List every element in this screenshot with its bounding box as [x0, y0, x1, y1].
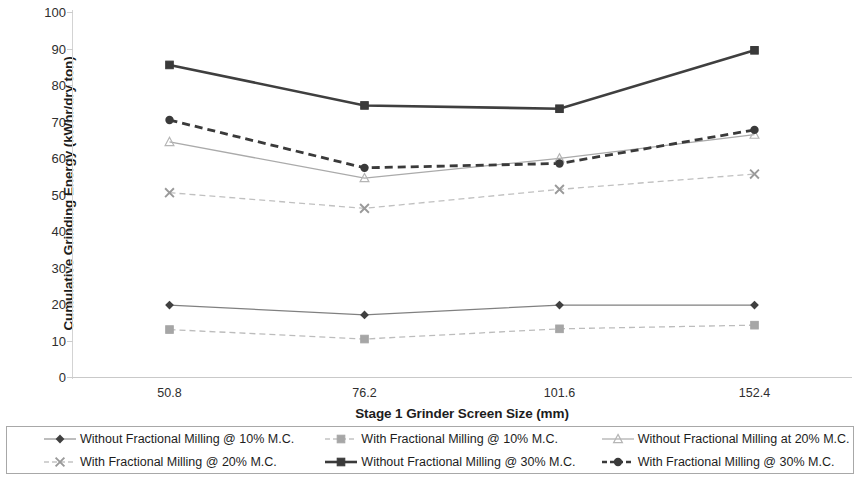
y-tick-label: 20	[0, 297, 66, 312]
x-axis-line	[70, 377, 852, 378]
data-point-square	[751, 47, 759, 55]
y-tick-label: 40	[0, 224, 66, 239]
data-point-square	[556, 105, 564, 113]
data-point-circle	[360, 164, 368, 172]
series-1	[166, 321, 759, 342]
legend-item-with-fm-10[interactable]: With Fractional Milling @ 10% M.C.	[306, 432, 590, 446]
y-tick-label: 10	[0, 333, 66, 348]
series-line	[170, 174, 755, 208]
legend-sample-triangle-icon	[601, 433, 635, 445]
data-point-diamond	[56, 434, 65, 443]
legend-item-with-fm-20[interactable]: With Fractional Milling @ 20% M.C.	[7, 455, 306, 469]
series-line	[170, 120, 755, 168]
y-tick-label: 80	[0, 78, 66, 93]
data-point-diamond	[750, 301, 759, 310]
legend-sample-dark-square-icon	[324, 456, 358, 468]
y-tick-mark	[67, 377, 73, 378]
y-tick-label: 0	[0, 370, 66, 385]
x-axis-title: Stage 1 Grinder Screen Size (mm)	[72, 406, 852, 421]
data-point-square	[166, 326, 174, 334]
legend-label: With Fractional Milling @ 10% M.C.	[361, 432, 558, 446]
data-point-circle	[165, 116, 173, 124]
legend-item-without-fm-20[interactable]: Without Fractional Milling at 20% M.C.	[591, 432, 853, 446]
data-point-square	[338, 458, 346, 466]
figure-container: Cumulative Grinding Energy (kWhr/dry ton…	[0, 0, 864, 491]
y-tick-label: 90	[0, 41, 66, 56]
data-point-circle	[613, 457, 621, 465]
series-2	[165, 130, 759, 182]
y-tick-label: 50	[0, 187, 66, 202]
y-tick-label: 70	[0, 114, 66, 129]
legend-item-without-fm-30[interactable]: Without Fractional Milling @ 30% M.C.	[306, 455, 590, 469]
series-layer	[72, 12, 852, 377]
series-3	[165, 170, 759, 213]
data-point-square	[556, 325, 564, 333]
x-tick-label: 50.8	[157, 386, 181, 400]
data-point-diamond	[165, 301, 174, 310]
data-point-square	[751, 321, 759, 329]
data-point-square	[338, 435, 346, 443]
legend-label: With Fractional Milling @ 20% M.C.	[80, 455, 277, 469]
legend-sample-diamond-icon	[43, 433, 77, 445]
legend-label: Without Fractional Milling @ 30% M.C.	[361, 455, 575, 469]
x-tick-label: 76.2	[352, 386, 376, 400]
data-point-square	[361, 102, 369, 110]
y-tick-label: 60	[0, 151, 66, 166]
x-tick-label: 152.4	[739, 386, 770, 400]
legend-sample-square-icon	[324, 433, 358, 445]
series-5	[165, 116, 758, 172]
series-line	[170, 325, 755, 339]
series-line	[170, 50, 755, 108]
legend-row-1: Without Fractional Milling @ 10% M.C. Wi…	[7, 427, 853, 450]
data-point-square	[166, 61, 174, 69]
plot-area	[72, 12, 852, 377]
legend-item-with-fm-30[interactable]: With Fractional Milling @ 30% M.C.	[591, 455, 853, 469]
legend-row-2: With Fractional Milling @ 20% M.C. Witho…	[7, 450, 853, 473]
legend-item-without-fm-10[interactable]: Without Fractional Milling @ 10% M.C.	[7, 432, 306, 446]
legend-label: With Fractional Milling @ 30% M.C.	[638, 455, 835, 469]
series-line	[170, 135, 755, 178]
x-tick-label: 101.6	[544, 386, 575, 400]
legend-label: Without Fractional Milling at 20% M.C.	[638, 432, 850, 446]
series-line	[170, 305, 755, 315]
data-point-triangle	[165, 137, 174, 145]
y-tick-label: 30	[0, 260, 66, 275]
data-point-diamond	[555, 301, 564, 310]
data-point-square	[361, 335, 369, 343]
series-4	[166, 47, 759, 113]
legend-sample-circle-icon	[601, 456, 635, 468]
legend-sample-x-icon	[43, 456, 77, 468]
data-point-circle	[750, 126, 758, 134]
data-point-circle	[555, 159, 563, 167]
data-point-diamond	[360, 311, 369, 320]
chart-legend: Without Fractional Milling @ 10% M.C. Wi…	[6, 426, 854, 474]
series-0	[165, 301, 759, 320]
legend-label: Without Fractional Milling @ 10% M.C.	[80, 432, 294, 446]
y-tick-label: 100	[0, 5, 66, 20]
